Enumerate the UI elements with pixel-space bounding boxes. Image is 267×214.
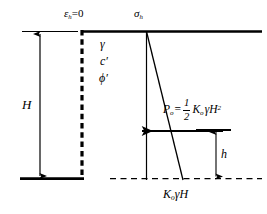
Po-symbol: Po [163,104,174,117]
label-wall-height: H [22,98,31,111]
one-half-fraction: 1 2 [183,98,190,122]
label-base-pressure: KoγH [163,188,188,201]
epsilon-symbol: εh [64,7,72,19]
label-strain-condition: εh=0 [64,8,83,20]
gamma-H-symbol: γH [175,187,188,201]
earth-pressure-diagram: εh=0 σh γ c′ ϕ′ H h KoγH Po = 1 2 KoγH2 [0,0,267,214]
diagram-canvas [0,0,267,214]
Ko-symbol: Ko [163,187,175,201]
label-resultant-equation: Po = 1 2 KoγH2 [163,98,221,122]
strain-value: 0 [78,7,84,19]
gamma-H-squared: γH2 [205,104,221,116]
equation-equals-sign: = [175,104,182,116]
fraction-numerator: 1 [183,98,190,110]
fraction-denominator: 2 [183,110,190,123]
label-unit-weight: γ [100,38,105,50]
label-resultant-height: h [221,148,227,160]
label-horizontal-stress: σh [134,8,143,20]
label-cohesion: c′ [100,55,108,67]
Ko-coefficient: Ko [192,104,203,117]
label-friction-angle: ϕ′ [99,72,108,84]
